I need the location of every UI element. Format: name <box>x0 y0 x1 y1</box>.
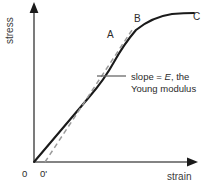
annotation-line-2: Young modulus <box>131 83 196 94</box>
y-axis-label: stress <box>4 17 15 44</box>
point-label-a: A <box>107 29 114 40</box>
annotation-slope-prefix: slope = <box>131 71 165 82</box>
stress-strain-diagram: stress strain 0 0' A B C slope = E, the … <box>0 0 216 185</box>
point-label-b: B <box>134 13 141 24</box>
diagram-canvas: stress strain 0 0' A B C slope = E, the … <box>0 0 216 185</box>
x-axis-label: strain <box>167 171 191 182</box>
point-label-c: C <box>193 11 200 22</box>
y-axis-arrowhead <box>30 2 39 13</box>
x-axis-arrowhead <box>187 158 198 167</box>
annotation-line-1: slope = E, the <box>131 71 189 82</box>
annotation-slope-suffix: , the <box>171 71 190 82</box>
offset-dashed-line <box>45 27 134 162</box>
offset-origin-label: 0' <box>40 168 47 179</box>
origin-label: 0 <box>22 168 27 179</box>
